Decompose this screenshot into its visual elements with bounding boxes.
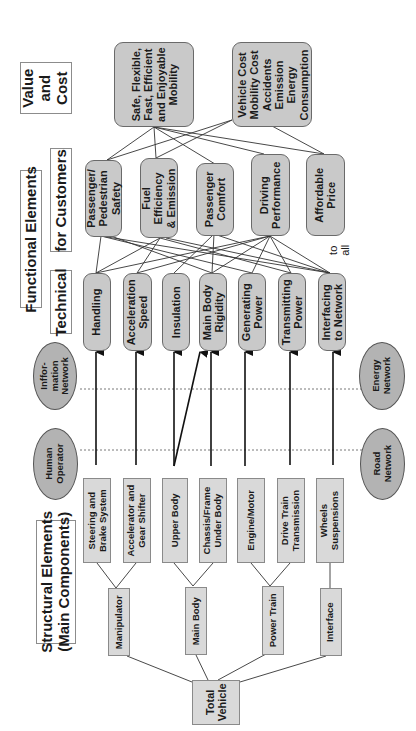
header-functional-elements: Functional Elements xyxy=(20,170,42,308)
network-information: Inffor- mation Network xyxy=(33,342,77,410)
header-technical: Technical xyxy=(50,270,72,334)
customer-function-safety: Passenger/ Pedestrian Safety xyxy=(85,160,122,237)
customer-function-affordable-price: Affordable Price xyxy=(306,154,345,236)
technical-function-rigidity: Main Body Rigidity xyxy=(199,273,227,351)
component-chassis-frame: Chassis/Frame Under Body xyxy=(199,478,227,563)
header-for-customers: for Customers xyxy=(50,148,72,252)
subsystem-interface: Interface xyxy=(320,588,342,656)
component-steering-brake: Steering and Brake System xyxy=(83,478,111,563)
header-structural-elements: Structural Elements (Main Components) xyxy=(36,520,76,644)
component-engine-motor: Engine/Motor xyxy=(237,478,265,563)
customer-function-comfort: Passenger Comfort xyxy=(196,163,234,236)
to-all-note: to all xyxy=(328,232,352,268)
vehicle-system-diagram: Value and Cost Functional Elements for C… xyxy=(0,0,416,731)
technical-function-handling: Handling xyxy=(83,273,111,351)
component-wheels-suspensions: Wheels Suspensions xyxy=(316,478,344,563)
technical-function-acceleration: Acceleration Speed xyxy=(123,273,152,351)
technical-function-insulation: Insulation xyxy=(162,273,190,351)
value-box-safe-mobility: Safe, Flexible, Fast, Efficient and Enjo… xyxy=(114,42,194,127)
component-upper-body: Upper Body xyxy=(162,478,188,563)
component-accelerator-gear: Accelerator and Gear Shifter xyxy=(123,478,151,563)
subsystem-power-train: Power Train xyxy=(262,586,284,655)
subsystem-manipulator: Manipulator xyxy=(108,588,130,656)
component-drive-train: Drive Train Transmission xyxy=(277,478,305,563)
technical-function-transmitting-power: Transmitting Power xyxy=(278,273,306,351)
technical-function-interfacing: Interfacing to Network xyxy=(318,273,346,351)
value-box-costs: Vehicle Cost Mobility Cost Accidents Emi… xyxy=(232,42,312,127)
technical-function-generating-power: Generating Power xyxy=(238,273,266,351)
network-road: Road Network xyxy=(360,428,405,500)
customer-function-fuel-efficiency: Fuel Efficiency & Emission xyxy=(140,158,178,238)
subsystem-main-body: Main Body xyxy=(185,587,207,655)
root-total-vehicle: Total Vehicle xyxy=(192,680,240,725)
header-value-and-cost: Value and Cost xyxy=(20,62,72,114)
network-human-operator: Human Operator xyxy=(33,428,78,500)
network-energy: Energy Network xyxy=(359,342,405,410)
customer-function-driving-performance: Driving Performance xyxy=(251,154,290,236)
